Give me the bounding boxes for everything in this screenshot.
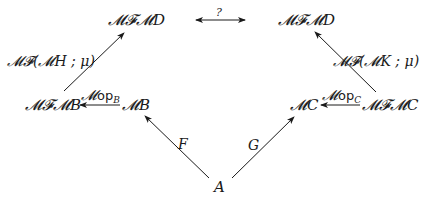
label-op-b-op: op: [97, 88, 113, 103]
arrow-f: [145, 116, 209, 178]
label-op-b: 𝓜opB: [81, 88, 120, 105]
label-op-b-sub: B: [113, 95, 120, 105]
node-mid-right-inner: 𝓜C: [290, 98, 318, 113]
label-right-up: 𝓜𝓕(𝓜K ; μ): [333, 54, 419, 68]
label-op-c-prefix: 𝓜: [322, 87, 338, 103]
label-left-up: 𝓜𝓕(𝓜H ; μ): [7, 54, 95, 68]
node-mid-right-outer: 𝓜𝓕𝓜C: [362, 98, 418, 113]
label-question: ?: [216, 7, 222, 18]
label-op-c-op: op: [338, 88, 354, 103]
arrow-g: [232, 117, 294, 178]
label-f: F: [178, 137, 188, 151]
label-op-c: 𝓜opC: [322, 88, 361, 105]
node-top-right: 𝓜𝓕𝓜D: [278, 13, 335, 28]
node-bottom: A: [214, 180, 225, 195]
commutative-diagram: 𝓜𝓕𝓜D 𝓜𝓕𝓜D 𝓜𝓕𝓜B 𝓜B 𝓜C 𝓜𝓕𝓜C A ? 𝓜𝓕(𝓜H ; μ)…: [0, 0, 433, 201]
label-op-c-sub: C: [354, 95, 361, 105]
node-top-left: 𝓜𝓕𝓜D: [108, 13, 165, 28]
node-mid-left-inner: 𝓜B: [122, 98, 150, 113]
label-op-b-prefix: 𝓜: [81, 87, 97, 103]
node-mid-left-outer: 𝓜𝓕𝓜B: [25, 98, 81, 113]
label-g: G: [248, 138, 259, 152]
